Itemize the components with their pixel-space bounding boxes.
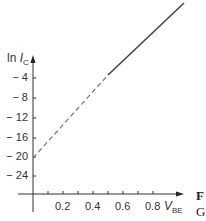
x-tick-label: 0.6 [115,200,130,212]
x-tick-label: 0.4 [85,200,100,212]
caption-fragment-2: G [196,204,205,220]
x-axis-label: VBE [164,199,183,215]
y-label-sub: C [23,58,29,67]
y-tick-label: − 24 [6,169,28,181]
x-label-var: V [164,199,172,213]
plot-canvas [0,0,206,221]
caption-fragment-1: F [196,188,204,204]
x-tick-label: 0.8 [145,200,160,212]
x-tick-label: 0.2 [55,200,70,212]
y-axis-label: ln IC [7,51,29,67]
y-tick-label: − 16 [6,131,28,143]
y-tick-label: − 8 [12,91,28,103]
y-label-text: ln [7,51,20,65]
x-axis-arrow-icon [176,192,184,197]
extrapolated-line [33,75,108,158]
y-axis-arrow-icon [31,55,36,63]
y-tick-label: − 4 [12,71,28,83]
y-tick-label: − 12 [6,111,28,123]
x-label-sub: BE [172,206,183,215]
y-tick-label: − 20 [6,150,28,162]
data-line [108,3,184,75]
